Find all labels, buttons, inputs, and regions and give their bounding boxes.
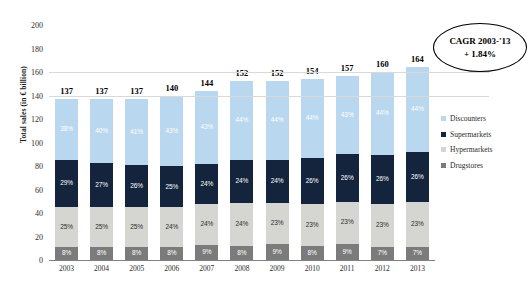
- bar-group[interactable]: 8%25%29%38%137: [49, 0, 84, 260]
- bar-segment-drugstores[interactable]: 7%: [406, 247, 429, 260]
- bar-group[interactable]: 8%25%27%40%137: [84, 0, 119, 260]
- segment-percent-label: 7%: [378, 250, 387, 257]
- bar-group[interactable]: 8%24%25%43%140: [154, 0, 189, 260]
- bar-segment-discounters[interactable]: 44%: [301, 79, 324, 158]
- cagr-line-1: CAGR 2003-'13: [449, 35, 510, 47]
- bar-group[interactable]: 9%23%24%44%152: [260, 0, 295, 260]
- bar-segment-discounters[interactable]: 43%: [336, 76, 359, 155]
- bar-total-label: 152: [260, 68, 295, 78]
- legend-item-discounters[interactable]: Discounters: [441, 111, 529, 127]
- bar-segment-discounters[interactable]: 44%: [266, 81, 289, 160]
- bar-segment-discounters[interactable]: 41%: [125, 99, 148, 165]
- bar-segment-supermarkets[interactable]: 26%: [301, 158, 324, 205]
- bar-segment-discounters[interactable]: 44%: [406, 67, 429, 152]
- gridline-140: [49, 96, 489, 97]
- bar-group[interactable]: 7%23%26%44%164: [400, 0, 435, 260]
- bar-segment-hypermarkets[interactable]: 24%: [230, 203, 253, 246]
- bar-segment-drugstores[interactable]: 8%: [301, 246, 324, 260]
- x-label-2003: 2003: [49, 264, 84, 273]
- segment-percent-label: 25%: [165, 184, 178, 191]
- bar-stack[interactable]: 8%24%24%44%: [230, 81, 253, 260]
- legend-swatch-icon: [441, 132, 446, 137]
- legend-label: Discounters: [450, 114, 486, 123]
- bar-segment-supermarkets[interactable]: 26%: [406, 152, 429, 202]
- segment-percent-label: 8%: [308, 250, 317, 257]
- bar-segment-hypermarkets[interactable]: 23%: [301, 204, 324, 245]
- bar-segment-hypermarkets[interactable]: 25%: [90, 207, 113, 247]
- segment-percent-label: 44%: [376, 110, 389, 117]
- bar-segment-discounters[interactable]: 44%: [371, 72, 394, 155]
- bar-segment-hypermarkets[interactable]: 23%: [266, 203, 289, 244]
- bar-segment-hypermarkets[interactable]: 25%: [55, 207, 78, 247]
- y-tick-180: 180: [31, 44, 43, 53]
- segment-percent-label: 9%: [343, 249, 352, 256]
- legend-label: Hypermarkets: [450, 145, 492, 154]
- legend-label: Drugstores: [450, 161, 483, 170]
- segment-percent-label: 44%: [306, 115, 319, 122]
- bar-stack[interactable]: 8%25%26%41%: [125, 99, 148, 260]
- bar-segment-discounters[interactable]: 38%: [55, 99, 78, 160]
- bar-segment-hypermarkets[interactable]: 25%: [125, 207, 148, 247]
- bar-segment-supermarkets[interactable]: 25%: [160, 166, 183, 207]
- bar-stack[interactable]: 9%23%24%44%: [266, 81, 289, 260]
- segment-percent-label: 8%: [132, 250, 141, 257]
- segment-percent-label: 44%: [271, 117, 284, 124]
- bar-group[interactable]: 9%23%26%43%157: [330, 0, 365, 260]
- bar-stack[interactable]: 8%25%27%40%: [90, 99, 113, 260]
- legend-item-drugstores[interactable]: Drugstores: [441, 158, 529, 174]
- segment-percent-label: 8%: [237, 250, 246, 257]
- bar-segment-drugstores[interactable]: 8%: [160, 247, 183, 260]
- bar-stack[interactable]: 9%24%24%43%: [195, 91, 218, 260]
- bar-segment-hypermarkets[interactable]: 23%: [406, 202, 429, 246]
- bar-segment-drugstores[interactable]: 8%: [230, 246, 253, 260]
- bar-segment-drugstores[interactable]: 7%: [371, 247, 394, 260]
- bar-segment-supermarkets[interactable]: 24%: [230, 160, 253, 203]
- bar-segment-discounters[interactable]: 43%: [160, 96, 183, 167]
- segment-percent-label: 25%: [130, 224, 143, 231]
- legend-item-hypermarkets[interactable]: Hypermarkets: [441, 142, 529, 158]
- bar-segment-drugstores[interactable]: 9%: [195, 245, 218, 260]
- segment-percent-label: 23%: [306, 222, 319, 229]
- bar-segment-supermarkets[interactable]: 24%: [266, 160, 289, 203]
- legend-swatch-icon: [441, 163, 446, 168]
- bar-segment-supermarkets[interactable]: 26%: [371, 155, 394, 204]
- bar-segment-supermarkets[interactable]: 26%: [336, 154, 359, 201]
- bar-group[interactable]: 9%24%24%43%144: [189, 0, 224, 260]
- bar-segment-discounters[interactable]: 43%: [195, 91, 218, 164]
- segment-percent-label: 9%: [202, 249, 211, 256]
- bar-group[interactable]: 8%25%26%41%137: [119, 0, 154, 260]
- bar-segment-supermarkets[interactable]: 24%: [195, 164, 218, 205]
- bar-segment-hypermarkets[interactable]: 23%: [371, 204, 394, 247]
- bar-segment-supermarkets[interactable]: 26%: [125, 165, 148, 207]
- bar-stack[interactable]: 7%23%26%44%: [371, 72, 394, 260]
- bar-stack[interactable]: 8%25%29%38%: [55, 99, 78, 260]
- legend-item-supermarkets[interactable]: Supermarkets: [441, 127, 529, 143]
- bar-group[interactable]: 8%24%24%44%152: [224, 0, 259, 260]
- bar-segment-drugstores[interactable]: 8%: [125, 247, 148, 260]
- y-tick-60: 60: [35, 185, 43, 194]
- bar-series-container: 8%25%29%38%1378%25%27%40%1378%25%26%41%1…: [49, 0, 435, 260]
- bar-segment-hypermarkets[interactable]: 23%: [336, 202, 359, 244]
- bar-segment-drugstores[interactable]: 9%: [266, 244, 289, 260]
- chart-legend: DiscountersSupermarketsHypermarketsDrugs…: [441, 111, 529, 173]
- bar-segment-discounters[interactable]: 44%: [230, 81, 253, 160]
- bar-segment-supermarkets[interactable]: 27%: [90, 163, 113, 206]
- bar-segment-drugstores[interactable]: 9%: [336, 244, 359, 260]
- x-axis-line: [49, 260, 435, 261]
- bar-segment-discounters[interactable]: 40%: [90, 99, 113, 163]
- bar-group[interactable]: 7%23%26%44%160: [365, 0, 400, 260]
- legend-swatch-icon: [441, 116, 446, 121]
- bar-segment-drugstores[interactable]: 8%: [55, 247, 78, 260]
- bar-segment-hypermarkets[interactable]: 24%: [160, 207, 183, 246]
- segment-percent-label: 25%: [60, 224, 73, 231]
- bar-group[interactable]: 8%23%26%44%154: [295, 0, 330, 260]
- x-axis-tick-labels: 2003200420052006200720082009201020112012…: [49, 264, 435, 280]
- bar-segment-hypermarkets[interactable]: 24%: [195, 204, 218, 245]
- bar-stack[interactable]: 8%23%26%44%: [301, 79, 324, 260]
- bar-segment-drugstores[interactable]: 8%: [90, 247, 113, 260]
- bar-stack[interactable]: 8%24%25%43%: [160, 96, 183, 261]
- segment-percent-label: 26%: [411, 174, 424, 181]
- bar-stack[interactable]: 9%23%26%43%: [336, 76, 359, 260]
- segment-percent-label: 29%: [60, 180, 73, 187]
- bar-segment-supermarkets[interactable]: 29%: [55, 160, 78, 207]
